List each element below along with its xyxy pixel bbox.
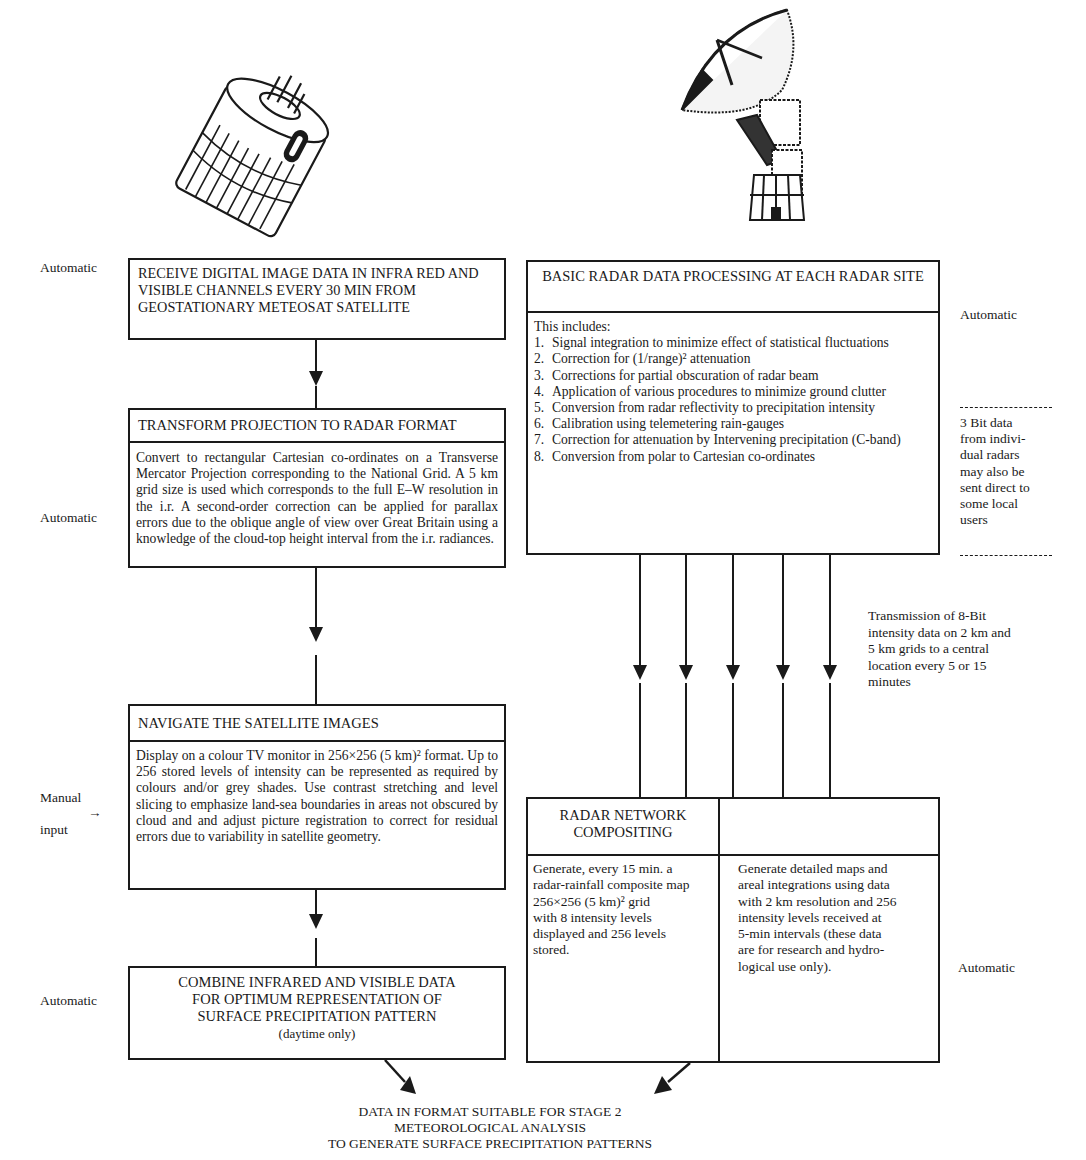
arrow-diagonal-icon [654,1076,672,1094]
final-output-text: DATA IN FORMAT SUITABLE FOR STAGE 2 METE… [240,1104,740,1152]
converging-arrows [0,0,1086,1160]
